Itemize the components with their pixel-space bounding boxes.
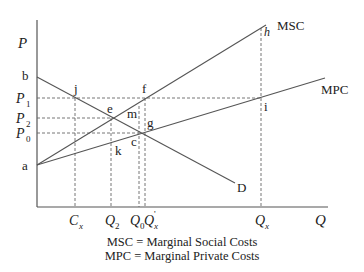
quantity-tick-base: Q [144, 213, 154, 228]
mpc-curve [37, 78, 325, 165]
msc-label: MSC [277, 18, 304, 33]
legend-msc: MSC = Marginal Social Costs [0, 235, 364, 249]
quantity-tick-base: Q [105, 213, 115, 228]
quantity-tick-prime: ' [154, 209, 156, 219]
demand-curve [37, 77, 235, 183]
quantity-tick-q0: Q 0 [130, 213, 145, 231]
point-k: k [115, 143, 122, 158]
price-tick-p1: P 1 [15, 91, 31, 109]
point-g: g [147, 115, 154, 130]
point-i: i [264, 99, 268, 114]
mpc-label: MPC [321, 82, 348, 97]
demand-label: D [237, 180, 246, 195]
externality-diagram: P Q MSC MPC D a b j e f m g c k h i P 1 … [0, 0, 364, 272]
y-axis-label: P [17, 35, 27, 51]
price-tick-base: P [15, 91, 25, 106]
quantity-tick-sub: 2 [115, 221, 120, 231]
price-tick-sub: 0 [26, 134, 31, 144]
quantity-tick-base: C [69, 213, 79, 228]
quantity-tick-qx: Q x [255, 213, 269, 231]
x-axis-label: Q [315, 212, 326, 228]
quantity-tick-qx-prime: Q ' x [144, 209, 158, 231]
quantity-tick-q2: Q 2 [105, 213, 120, 231]
price-tick-base: P [15, 111, 25, 126]
quantity-tick-base: Q [130, 213, 140, 228]
point-h: h [264, 25, 270, 39]
legend-mpc: MPC = Marginal Private Costs [0, 249, 364, 263]
price-tick-base: P [15, 126, 25, 141]
point-j: j [73, 81, 78, 96]
quantity-tick-sub: x [153, 221, 158, 231]
point-c: c [131, 134, 137, 149]
quantity-tick-sub: x [264, 221, 269, 231]
point-b: b [22, 68, 29, 83]
legend: MSC = Marginal Social Costs MPC = Margin… [0, 235, 364, 263]
point-m: m [127, 106, 137, 121]
price-tick-sub: 1 [26, 99, 31, 109]
quantity-tick-base: Q [255, 213, 265, 228]
point-e: e [107, 101, 113, 116]
point-f: f [142, 81, 147, 96]
point-a: a [22, 158, 28, 173]
quantity-tick-sub: x [78, 221, 83, 231]
quantity-tick-cx: C x [69, 213, 83, 231]
price-tick-sub: 2 [26, 119, 31, 129]
